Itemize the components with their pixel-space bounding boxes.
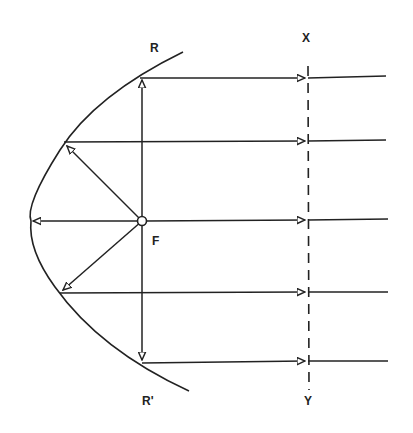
reflected-rays	[60, 76, 388, 363]
label-R-prime: R'	[142, 394, 154, 408]
reflected-ray-3	[146, 220, 305, 221]
ray-focus-upper	[67, 146, 142, 221]
label-R: R	[150, 41, 159, 55]
wavefront-line-xy	[308, 66, 309, 390]
label-X: X	[302, 31, 310, 45]
label-Y: Y	[304, 394, 312, 408]
incident-rays	[33, 80, 142, 360]
ray-focus-lower	[63, 221, 142, 290]
reflected-ray-2	[64, 141, 305, 142]
focus-point	[138, 217, 147, 226]
label-F: F	[152, 234, 159, 248]
parabolic-reflector-diagram	[0, 0, 413, 433]
reflected-ray-5	[142, 361, 305, 363]
reflected-ray-4	[60, 292, 305, 293]
